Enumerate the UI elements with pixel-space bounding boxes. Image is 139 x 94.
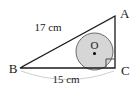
geometry-figure: A B C O 17 cm 15 cm <box>0 0 139 94</box>
triangle-incircle-diagram: A B C O 17 cm 15 cm <box>0 0 139 94</box>
dimension-label-bc: 15 cm <box>52 73 80 85</box>
vertex-label-b: B <box>9 61 18 76</box>
vertex-label-a: A <box>120 6 130 21</box>
vertex-label-c: C <box>121 63 130 78</box>
incircle-center-dot <box>93 52 96 55</box>
incircle-center-label: O <box>91 39 99 51</box>
dimension-label-ab: 17 cm <box>34 21 62 33</box>
